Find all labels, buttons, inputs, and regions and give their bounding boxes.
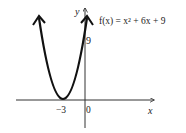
x-tick-neg3: −3 bbox=[56, 105, 66, 115]
function-graph: y x f(x) = x² + 6x + 9 9 −3 0 bbox=[0, 0, 186, 133]
function-label: f(x) = x² + 6x + 9 bbox=[99, 16, 166, 27]
x-tick-0: 0 bbox=[86, 105, 91, 115]
y-tick-9: 9 bbox=[86, 35, 91, 46]
x-axis-label: x bbox=[147, 105, 153, 116]
parabola-curve bbox=[39, 18, 87, 99]
y-axis-label: y bbox=[74, 6, 80, 17]
